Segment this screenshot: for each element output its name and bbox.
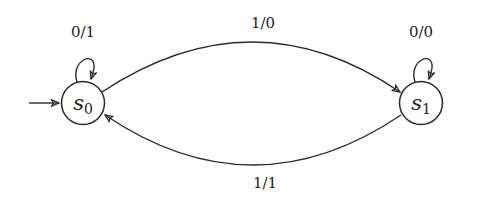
transition-label-s1-s1: 0/0 — [409, 23, 433, 41]
state-subscript-s1: 1 — [422, 101, 431, 117]
transition-label-s0-s0: 0/1 — [71, 23, 95, 41]
state-subscript-s0: 0 — [84, 101, 93, 117]
state-label-s0: s — [73, 91, 84, 115]
self-loop-s1 — [414, 59, 432, 82]
edge-s1-to-s0 — [105, 115, 401, 165]
edge-s0-to-s1 — [102, 42, 400, 92]
state-label-s1: s — [411, 91, 422, 115]
transition-label-s1-s0: 1/1 — [253, 174, 277, 192]
state-diagram: 0/1 0/0 1/0 1/1 s0 s1 — [0, 0, 497, 202]
state-s0: s0 — [62, 82, 105, 125]
self-loop-s0 — [76, 59, 94, 82]
state-s1: s1 — [400, 82, 443, 125]
transition-label-s0-s1: 1/0 — [251, 14, 275, 32]
